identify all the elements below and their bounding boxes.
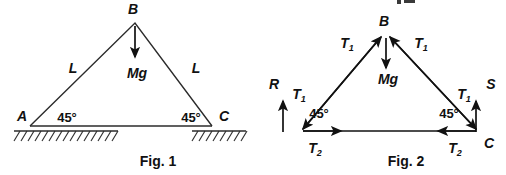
fig1-side-label-left: L [69, 60, 78, 76]
fig2-reaction-left-label: R [269, 76, 280, 92]
fig1-label-b: B [128, 1, 138, 17]
fig1-support-right [192, 131, 247, 141]
fig1-angle-left: 45° [57, 110, 77, 125]
fig2-tension-leg-label-upper-right: T1 [414, 35, 428, 53]
fig2-caption: Fig. 2 [388, 153, 425, 169]
fig2-label-c: C [484, 135, 495, 151]
fig2-angle-right: 45° [439, 106, 459, 121]
fig1-angle-right: 45° [181, 110, 201, 125]
fig2-leg-right-tension [390, 37, 476, 129]
fig2-reaction-right-label: S [486, 76, 496, 92]
fig1-label-c: C [219, 108, 230, 124]
fig2-tension-leg-label-upper-left: T1 [340, 35, 354, 53]
fig2-clipped-fragment [397, 0, 415, 4]
fig2-tension-leg-label-lower-left: T1 [292, 86, 306, 104]
fig2-angle-left: 45° [309, 106, 329, 121]
fig1-side-label-right: L [192, 60, 201, 76]
figures-canvas: B A C L L 45° 45° Mg Fig. 1 [0, 0, 506, 175]
fig2-tension-base-label-right: T2 [448, 140, 462, 158]
fig2-tension-base-label-left: T2 [308, 140, 322, 158]
fig1-support-left [14, 131, 118, 141]
fig1-label-a: A [16, 108, 27, 124]
fig2-label-b: B [379, 13, 389, 29]
fig1-caption: Fig. 1 [140, 153, 177, 169]
fig2-tension-leg-label-lower-right: T1 [457, 86, 471, 104]
figure-sheet: B A C L L 45° 45° Mg Fig. 1 [0, 0, 506, 175]
fig1-weight-label: Mg [127, 65, 148, 81]
fig2-weight-label: Mg [378, 71, 399, 87]
figure-1: B A C L L 45° 45° Mg Fig. 1 [14, 1, 247, 169]
figure-2: B C R S T1 T1 T1 T1 T2 [269, 0, 496, 169]
